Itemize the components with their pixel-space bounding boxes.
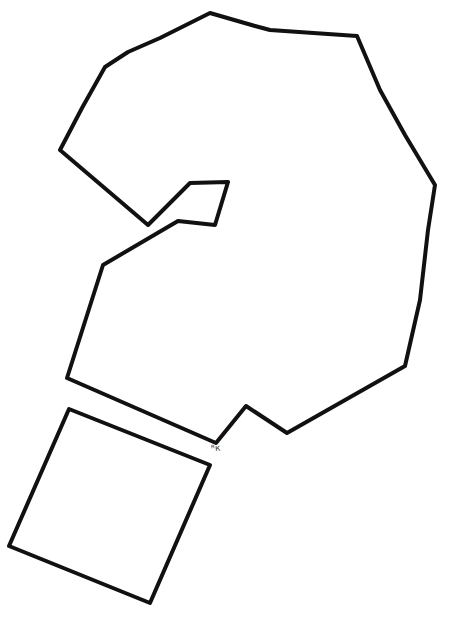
quadrilateral — [9, 409, 210, 603]
drawing-canvas — [0, 0, 452, 617]
large-irregular-polygon — [60, 13, 435, 443]
small-scribble-annotation: ᴿк — [211, 443, 221, 454]
